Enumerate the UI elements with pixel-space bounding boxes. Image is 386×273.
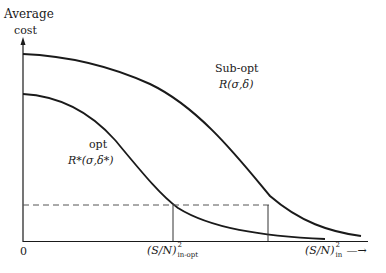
opt-snr-label: (S/N)2in-opt bbox=[147, 244, 206, 257]
x-axis-label-scripts: 2in bbox=[334, 244, 346, 257]
x-axis-label-sub: in bbox=[335, 249, 342, 262]
opt-curve-formula: R*(σ,δ*) bbox=[68, 154, 114, 167]
diagram-canvas bbox=[0, 0, 386, 273]
origin-label: 0 bbox=[20, 245, 27, 258]
opt-snr-label-scripts: 2in-opt bbox=[176, 244, 206, 257]
x-axis-label-base: (S/N) bbox=[305, 244, 334, 257]
y-axis-label-line2: cost bbox=[14, 24, 37, 37]
y-axis-arrow-icon bbox=[21, 37, 26, 45]
sub-opt-curve-formula: R(σ,δ) bbox=[219, 78, 254, 91]
y-axis-label-line1: Average bbox=[4, 8, 54, 21]
sub-opt-curve-name: Sub-opt bbox=[215, 62, 258, 75]
x-axis-label: (S/N)2in—→ bbox=[305, 244, 367, 257]
x-axis-arrow-icon: —→ bbox=[346, 244, 366, 257]
opt-snr-label-base: (S/N) bbox=[147, 244, 176, 257]
opt-curve-name: opt bbox=[89, 138, 107, 151]
sub-opt-curve bbox=[23, 54, 361, 236]
opt-snr-label-sub: in-opt bbox=[177, 249, 198, 262]
cost-vs-snr-diagram: Average cost 0 Sub-opt R(σ,δ) opt R*(σ,δ… bbox=[0, 0, 386, 273]
